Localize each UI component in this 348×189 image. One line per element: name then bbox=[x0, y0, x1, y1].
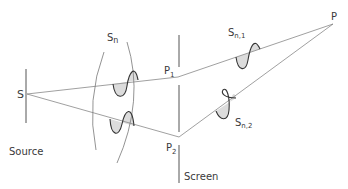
label-screen: Screen bbox=[184, 171, 218, 182]
interference-diagram: S Source Sn P1 P2 Screen P Sn,1 Sn,2 bbox=[0, 0, 348, 189]
label-sn: Sn bbox=[107, 32, 118, 45]
wave-sn2 bbox=[216, 89, 236, 119]
rays bbox=[27, 24, 333, 137]
label-sn1: Sn,1 bbox=[228, 27, 245, 40]
label-p2: P2 bbox=[166, 142, 177, 156]
wave-sn-lower bbox=[110, 111, 134, 133]
label-sn2: Sn,2 bbox=[235, 117, 252, 130]
wavefront-arcs bbox=[92, 42, 134, 163]
label-source: Source bbox=[9, 146, 43, 157]
wave-sn1 bbox=[236, 43, 260, 68]
wave-sn-upper bbox=[113, 70, 139, 96]
label-p1: P1 bbox=[164, 65, 175, 79]
label-p: P bbox=[331, 11, 337, 22]
label-s: S bbox=[17, 88, 24, 101]
